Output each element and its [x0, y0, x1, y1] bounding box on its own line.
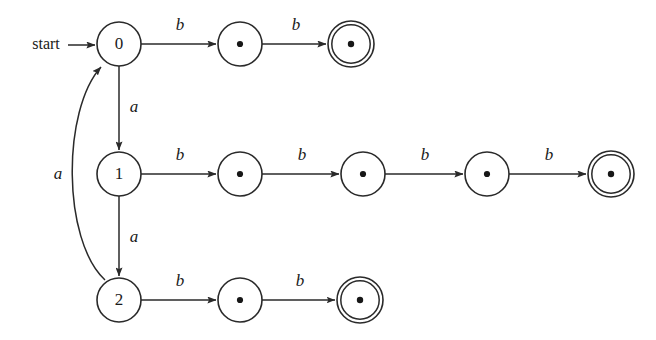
state-t1c[interactable]: [465, 152, 509, 196]
state-dot-icon: [360, 171, 366, 177]
state-t1b[interactable]: [341, 152, 385, 196]
edge-label-b: b: [545, 145, 554, 164]
edge-label-b: b: [176, 271, 185, 290]
state-t2b-accepting[interactable]: [337, 277, 383, 323]
state-t0b-accepting[interactable]: [328, 21, 374, 67]
state-label: 2: [115, 290, 124, 309]
state-label: 1: [115, 164, 124, 183]
state-q0[interactable]: 0: [97, 22, 141, 66]
state-t2a[interactable]: [218, 278, 262, 322]
state-t1a[interactable]: [218, 152, 262, 196]
edge-t2a-to-t2b: b: [262, 271, 335, 300]
state-dot-icon: [237, 297, 243, 303]
edge-label-a: a: [130, 227, 139, 246]
edge-label-b: b: [421, 145, 430, 164]
state-dot-icon: [348, 41, 354, 47]
edge-label-a: a: [54, 164, 63, 183]
edge-q2-to-t2a: b: [141, 271, 216, 300]
edge-label-b: b: [176, 145, 185, 164]
state-dot-icon: [608, 171, 614, 177]
edge-t1c-to-t1d: b: [509, 145, 586, 174]
state-dot-icon: [484, 171, 490, 177]
automaton-diagram: start b b b b b b b b a a: [0, 0, 656, 340]
edge-q1-to-q2: a: [119, 196, 138, 276]
edge-label-b: b: [298, 145, 307, 164]
start-label: start: [32, 35, 60, 52]
start-arrow-group: start: [32, 35, 95, 52]
edge-label-b: b: [176, 15, 185, 34]
state-q1[interactable]: 1: [97, 152, 141, 196]
edge-label-b: b: [292, 15, 301, 34]
state-dot-icon: [237, 41, 243, 47]
state-dot-icon: [237, 171, 243, 177]
edge-q0-to-q1: a: [119, 66, 138, 150]
edge-label-b: b: [296, 271, 305, 290]
edge-t0a-to-t0b: b: [262, 15, 326, 44]
state-dot-icon: [357, 297, 363, 303]
edge-q1-to-t1a: b: [141, 145, 216, 174]
edge-t1a-to-t1b: b: [262, 145, 339, 174]
state-q2[interactable]: 2: [97, 278, 141, 322]
state-t0a[interactable]: [218, 22, 262, 66]
edge-label-a: a: [130, 97, 139, 116]
edge-q0-to-t0a: b: [141, 15, 216, 44]
edge-t1b-to-t1c: b: [385, 145, 463, 174]
state-t1d-accepting[interactable]: [588, 151, 634, 197]
state-label: 0: [115, 34, 124, 53]
